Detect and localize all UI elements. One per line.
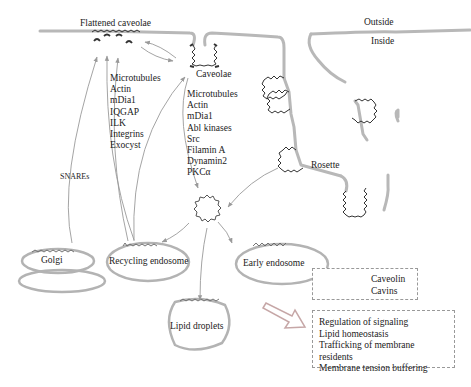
label-rosette: Rosette	[311, 160, 340, 171]
factor-item: Actin	[110, 84, 161, 95]
factor-item: mDia1	[110, 95, 161, 106]
factor-item: Src	[187, 134, 238, 145]
rosette-caveolae	[262, 76, 377, 217]
caveolar-vesicle	[194, 195, 221, 222]
label-caveolae: Caveolae	[196, 69, 231, 80]
factor-item: Filamin A	[187, 145, 238, 156]
functions-box: Regulation of signaling Lipid homeostasi…	[312, 310, 455, 368]
factor-item: Exocyst	[110, 140, 161, 151]
factor-item: Actin	[187, 100, 238, 111]
label-lipid-droplets: Lipid droplets	[170, 321, 224, 332]
flattening-factors-list: Microtubules Actin mDia1 IQGAP ILK Integ…	[110, 73, 161, 151]
label-early-endosome: Early endosome	[243, 258, 304, 269]
factor-item: PKCα	[187, 167, 238, 178]
label-flattened-caveolae: Flattened caveolae	[80, 18, 151, 29]
label-golgi: Golgi	[41, 255, 63, 266]
function-arrow	[263, 303, 305, 328]
caveola-pit	[190, 44, 219, 67]
legend-item-cavins: Cavins	[371, 285, 397, 297]
function-item: Trafficking of membrane residents	[319, 340, 448, 363]
legend-item-caveolin: Caveolin	[371, 273, 405, 285]
factor-item: IQGAP	[110, 107, 161, 118]
factor-item: Abl kinases	[187, 123, 238, 134]
factor-item: Microtubules	[187, 89, 238, 100]
function-item: Lipid homeostasis	[319, 329, 448, 341]
plasma-membrane	[40, 30, 470, 210]
factor-item: Integrins	[110, 129, 161, 140]
factor-item: ILK	[110, 118, 161, 129]
factor-item: Microtubules	[110, 73, 161, 84]
label-inside: Inside	[371, 36, 394, 47]
label-recycling-endosome: Recycling endosome	[109, 256, 188, 267]
legend-box: Caveolin Cavins	[312, 268, 418, 300]
function-item: Membrane tension buffering	[319, 363, 448, 375]
internalization-factors-list: Microtubules Actin mDia1 Abl kinases Src…	[187, 89, 238, 179]
function-item: Regulation of signaling	[319, 317, 448, 329]
label-snares: SNAREs	[60, 171, 89, 182]
factor-item: mDia1	[187, 111, 238, 122]
label-outside: Outside	[364, 17, 394, 28]
factor-item: Dynamin2	[187, 156, 238, 167]
